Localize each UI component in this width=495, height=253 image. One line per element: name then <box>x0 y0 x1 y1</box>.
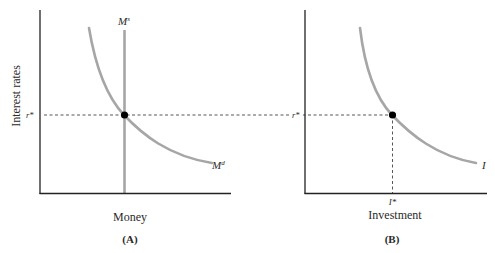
panel-a: Ms Md r* Interest rates Money (A) <box>9 10 392 246</box>
panel-caption-b: (B) <box>385 233 400 246</box>
investment-curve <box>360 28 476 163</box>
equilibrium-point-b <box>389 111 396 118</box>
panel-b: r* I* I Investment (B) <box>290 10 487 246</box>
investment-curve-label: I <box>481 159 487 171</box>
r-star-label-a: r* <box>26 110 34 120</box>
x-axis-label-a: Money <box>113 210 147 224</box>
panel-caption-a: (A) <box>122 233 138 246</box>
r-star-label-b: r* <box>292 110 300 120</box>
money-demand-curve <box>89 28 212 163</box>
diagram-canvas: Ms Md r* Interest rates Money (A) r* I* … <box>0 0 495 253</box>
y-axis-label: Interest rates <box>9 65 23 127</box>
supply-curve-label: Ms <box>117 15 130 27</box>
equilibrium-point-a <box>121 111 128 118</box>
i-star-label: I* <box>388 197 397 207</box>
x-axis-label-b: Investment <box>368 208 422 222</box>
demand-curve-label: Md <box>211 159 225 171</box>
